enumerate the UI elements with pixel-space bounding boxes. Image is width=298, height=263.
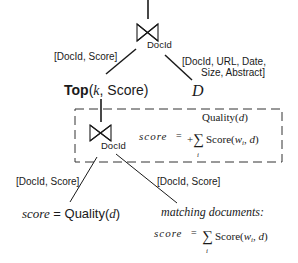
top-join-label: DocId bbox=[147, 39, 172, 50]
box-sigma-index: i bbox=[197, 151, 199, 159]
matching-sigma: ∑ bbox=[202, 228, 213, 245]
left-edge-label: [DocId, Score] bbox=[54, 51, 118, 62]
right-edge-label-line2: Size, Abstract] bbox=[201, 67, 265, 78]
box-equals: = bbox=[176, 130, 182, 141]
matching-score-term: Score(wi, d) bbox=[215, 230, 268, 244]
matching-documents-title: matching documents: bbox=[161, 205, 264, 219]
top-operator: Top(k, Score) bbox=[64, 82, 149, 98]
join-icon-inner bbox=[90, 125, 111, 141]
box-score-term: Score(wi, d) bbox=[206, 133, 259, 147]
inner-left-edge-label: [DocId, Score] bbox=[16, 176, 80, 187]
matching-score-lhs: score bbox=[154, 227, 182, 239]
documents-table: D bbox=[191, 82, 204, 99]
matching-equals: = bbox=[191, 227, 197, 238]
right-edge-label-line1: [DocId, URL, Date, bbox=[182, 56, 266, 67]
box-sigma: ∑ bbox=[193, 131, 204, 148]
query-plan-diagram: DocId [DocId, Score] [DocId, URL, Date, … bbox=[0, 0, 298, 263]
inner-join-label: DocId bbox=[101, 140, 126, 151]
inner-right-edge-label: [DocId, Score] bbox=[157, 176, 221, 187]
matching-sigma-index: i bbox=[206, 247, 208, 255]
box-score-lhs: score bbox=[139, 130, 167, 142]
quality-leaf: score = Quality(d) bbox=[22, 206, 120, 221]
box-quality-term: Quality(d) bbox=[202, 111, 248, 124]
